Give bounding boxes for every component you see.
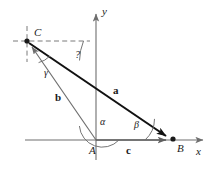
angle-label-alpha: α [100,116,106,127]
vector-b-line [32,47,96,140]
angle-arc-alpha [79,126,119,147]
angle-label-gamma: γ [44,67,49,78]
vector-label-c: c [126,144,131,156]
point-dot-b [170,136,175,141]
triangle-sides [32,47,166,140]
y-axis-label: y [101,5,107,17]
angle-label-beta: β [133,119,139,130]
point-label-a: A [88,144,96,156]
vector-triangle-diagram: C A B a b c α β γ ? y x [0,0,216,171]
vector-label-b: b [55,91,61,103]
angle-arc-unknown [80,41,84,61]
vector-label-a: a [113,84,119,96]
angle-label-unknown: ? [75,49,80,60]
point-label-b: B [177,142,184,154]
point-label-c: C [34,26,42,38]
x-axis-label: x [195,145,201,157]
point-dot-c [24,38,29,43]
figure-canvas: C A B a b c α β γ ? y x [0,0,216,171]
